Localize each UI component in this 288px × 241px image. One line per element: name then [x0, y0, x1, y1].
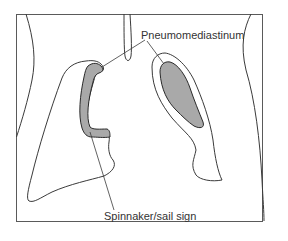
trachea [124, 14, 131, 61]
leader-line-left [102, 40, 145, 67]
leader-line-sail [90, 132, 114, 210]
right-chest-wall [243, 14, 264, 221]
left-chest-wall [17, 14, 35, 137]
pneumomediastinum-shading [160, 62, 203, 128]
frame-border [17, 15, 263, 222]
label-pneumomediastinum: Pneumomediastinum [141, 30, 244, 41]
sail-sign-shading [80, 63, 110, 137]
label-sail-sign: Spinnaker/sail sign [104, 211, 196, 222]
leader-line-right [147, 41, 164, 64]
chest-diagram: Pneumomediastinum Spinnaker/sail sign [0, 0, 288, 241]
